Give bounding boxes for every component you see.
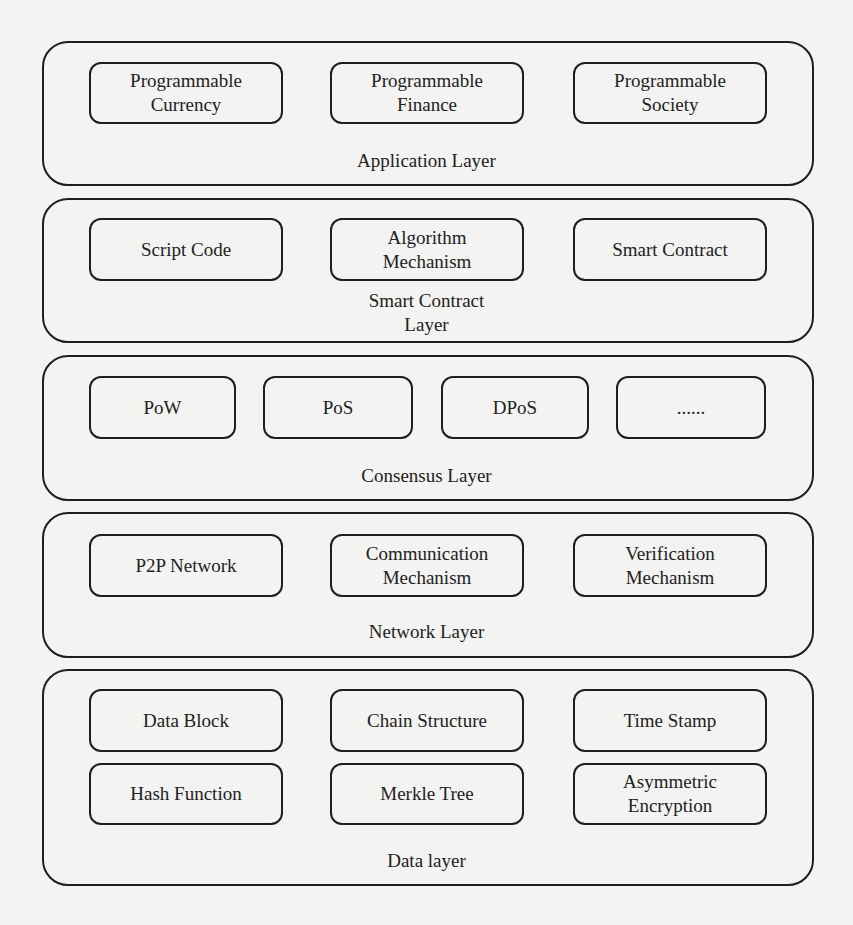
component-script-code: Script Code xyxy=(89,218,283,281)
component-asymmetric-encryption: Asymmetric Encryption xyxy=(573,763,767,825)
layer-label-data: Data layer xyxy=(0,849,853,873)
layer-label-application: Application Layer xyxy=(0,149,853,173)
layer-label-smart-contract: Smart Contract Layer xyxy=(0,289,853,337)
component-hash-function: Hash Function xyxy=(89,763,283,825)
component-programmable-currency: Programmable Currency xyxy=(89,62,283,124)
component-pow: PoW xyxy=(89,376,236,439)
component-algorithm-mechanism: Algorithm Mechanism xyxy=(330,218,524,281)
component-more: ...... xyxy=(616,376,766,439)
layer-label-network: Network Layer xyxy=(0,620,853,644)
component-p2p-network: P2P Network xyxy=(89,534,283,597)
component-chain-structure: Chain Structure xyxy=(330,689,524,752)
component-time-stamp: Time Stamp xyxy=(573,689,767,752)
component-communication-mechanism: Communication Mechanism xyxy=(330,534,524,597)
component-dpos: DPoS xyxy=(441,376,589,439)
component-pos: PoS xyxy=(263,376,413,439)
component-programmable-finance: Programmable Finance xyxy=(330,62,524,124)
component-merkle-tree: Merkle Tree xyxy=(330,763,524,825)
component-verification-mechanism: Verification Mechanism xyxy=(573,534,767,597)
layer-label-consensus: Consensus Layer xyxy=(0,464,853,488)
component-smart-contract: Smart Contract xyxy=(573,218,767,281)
component-programmable-society: Programmable Society xyxy=(573,62,767,124)
component-data-block: Data Block xyxy=(89,689,283,752)
